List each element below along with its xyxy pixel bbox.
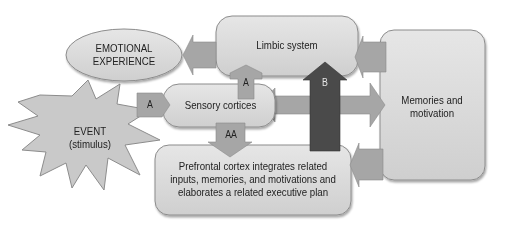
limbic-to-emotional-arrow [183, 35, 216, 75]
emotional-experience-line1: EMOTIONAL [89, 42, 159, 55]
diagram: EMOTIONAL EXPERIENCE Limbic system EVENT… [0, 0, 506, 229]
memories-to-limbic-arrow [355, 36, 386, 78]
memories-motivation-line1: Memories and [388, 94, 476, 107]
sensory-cortices-label: Sensory cortices [174, 99, 266, 112]
memories-motivation-line2: motivation [388, 107, 476, 120]
event-label: EVENT (stimulus) [55, 125, 125, 151]
sensory-to-limbic-arrow-label: A [237, 77, 255, 89]
prefrontal-cortex-label: Prefrontal cortex integrates related inp… [162, 160, 343, 199]
event-to-sensory-arrow-label: A [141, 99, 159, 111]
memories-motivation-label: Memories and motivation [388, 94, 476, 120]
limbic-system-label: Limbic system [230, 39, 344, 52]
emotional-experience-line2: EXPERIENCE [89, 55, 159, 68]
emotional-experience-label: EMOTIONAL EXPERIENCE [89, 42, 159, 68]
prefrontal-line1: Prefrontal cortex integrates related [162, 160, 343, 173]
event-line1: EVENT [55, 125, 125, 138]
memories-to-prefrontal-arrow [350, 143, 383, 187]
prefrontal-to-limbic-arrow-label: B [316, 77, 334, 89]
event-line2: (stimulus) [55, 138, 125, 151]
prefrontal-line2: inputs, memories, and motivations and [162, 173, 343, 186]
prefrontal-line3: elaborates a related executive plan [162, 186, 343, 199]
sensory-to-prefrontal-arrow-label: AA [220, 129, 241, 141]
